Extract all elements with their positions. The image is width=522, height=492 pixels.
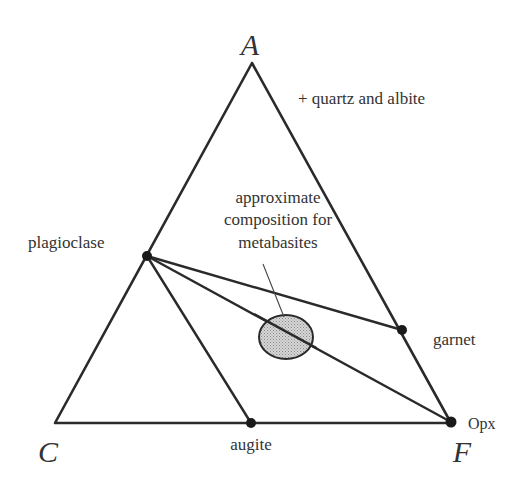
vertex-label-f: F — [452, 435, 472, 468]
augite-label: augite — [230, 435, 272, 454]
garnet-point — [397, 325, 407, 335]
vertex-label-a: A — [239, 28, 260, 61]
field-label-line-1: approximate — [236, 188, 321, 207]
acf-ternary-diagram: A C F + quartz and albite plagioclase ga… — [0, 0, 522, 492]
garnet-label: garnet — [433, 330, 476, 349]
vertex-label-c: C — [38, 435, 59, 468]
opx-label: Opx — [468, 415, 496, 433]
field-label-line-2: composition for — [224, 210, 332, 229]
opx-point — [446, 417, 457, 428]
plagioclase-point — [142, 251, 152, 261]
assemblage-annotation: + quartz and albite — [298, 89, 425, 108]
plagioclase-label: plagioclase — [28, 233, 104, 252]
augite-point — [246, 418, 256, 428]
field-label-line-3: metabasites — [238, 233, 317, 252]
